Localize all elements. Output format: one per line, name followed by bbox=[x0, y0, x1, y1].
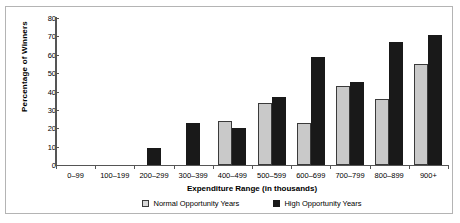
bar-group bbox=[213, 18, 252, 165]
bar-group bbox=[330, 18, 369, 165]
bar bbox=[147, 148, 161, 165]
bar bbox=[389, 42, 403, 165]
bar bbox=[428, 35, 442, 165]
x-tick-mark bbox=[134, 165, 135, 169]
x-tick-mark bbox=[291, 165, 292, 169]
y-tick-label: 30 bbox=[34, 105, 56, 114]
x-tick-mark bbox=[370, 165, 371, 169]
legend-item-high-opportunity-years: High Opportunity Years bbox=[273, 199, 361, 208]
bar bbox=[336, 86, 350, 165]
y-tick-mark bbox=[55, 55, 59, 56]
y-tick-mark bbox=[55, 110, 59, 111]
x-tick-mark bbox=[95, 165, 96, 169]
y-tick-mark bbox=[55, 92, 59, 93]
bar bbox=[311, 57, 325, 165]
x-tick-label: 900+ bbox=[400, 171, 456, 180]
legend-label-high: High Opportunity Years bbox=[284, 199, 361, 208]
bar bbox=[350, 82, 364, 165]
x-tick-mark bbox=[330, 165, 331, 169]
bar-group bbox=[56, 18, 95, 165]
y-axis-ticks: 01020304050607080 bbox=[0, 0, 56, 223]
y-tick-mark bbox=[55, 36, 59, 37]
y-tick-label: 60 bbox=[34, 50, 56, 59]
y-tick-label: 20 bbox=[34, 124, 56, 133]
bar bbox=[186, 123, 200, 165]
x-tick-mark bbox=[213, 165, 214, 169]
y-tick-mark bbox=[55, 73, 59, 74]
bar bbox=[297, 123, 311, 165]
x-tick-mark bbox=[56, 165, 57, 169]
y-tick-label: 50 bbox=[34, 69, 56, 78]
y-tick-label: 0 bbox=[34, 161, 56, 170]
plot-area bbox=[56, 18, 448, 165]
y-tick-mark bbox=[55, 128, 59, 129]
bar-group bbox=[409, 18, 448, 165]
x-tick-mark bbox=[409, 165, 410, 169]
bar bbox=[258, 103, 272, 165]
legend-swatch-icon-high bbox=[273, 200, 280, 207]
y-tick-mark bbox=[55, 18, 59, 19]
bar bbox=[218, 121, 232, 165]
y-tick-label: 80 bbox=[34, 14, 56, 23]
y-tick-label: 40 bbox=[34, 87, 56, 96]
x-tick-mark bbox=[174, 165, 175, 169]
y-tick-label: 70 bbox=[34, 32, 56, 41]
chart-legend: Normal Opportunity Years High Opportunit… bbox=[56, 199, 448, 208]
bar bbox=[272, 97, 286, 165]
bar bbox=[232, 128, 246, 165]
bar-group bbox=[134, 18, 173, 165]
bar-group bbox=[252, 18, 291, 165]
bar bbox=[414, 64, 428, 165]
x-tick-mark bbox=[252, 165, 253, 169]
bar bbox=[375, 99, 389, 165]
y-tick-mark bbox=[55, 147, 59, 148]
x-axis-title: Expenditure Range (in thousands) bbox=[56, 184, 448, 193]
legend-label-normal: Normal Opportunity Years bbox=[153, 199, 239, 208]
y-tick-label: 10 bbox=[34, 142, 56, 151]
bar-group bbox=[291, 18, 330, 165]
chart-figure: Percentage of Winners 01020304050607080 … bbox=[0, 0, 460, 223]
bar-group bbox=[95, 18, 134, 165]
legend-item-normal-opportunity-years: Normal Opportunity Years bbox=[142, 199, 239, 208]
x-tick-mark bbox=[448, 165, 449, 169]
bar-group bbox=[174, 18, 213, 165]
bar-group bbox=[370, 18, 409, 165]
legend-swatch-icon-normal bbox=[142, 200, 149, 207]
